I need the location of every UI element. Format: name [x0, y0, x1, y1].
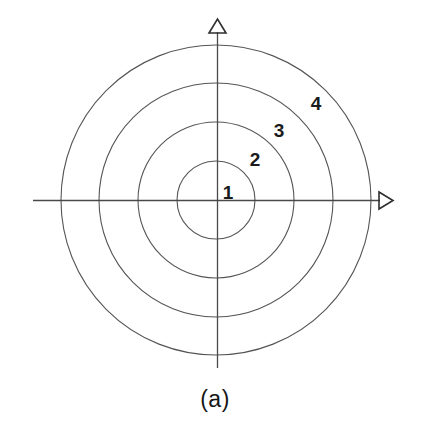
concentric-circles-diagram	[0, 0, 430, 437]
axes-group	[33, 19, 393, 368]
ring-label-2: 2	[250, 150, 261, 169]
ring-label-4: 4	[311, 94, 322, 113]
figure-container: 1 2 3 4 (a)	[0, 0, 430, 437]
figure-caption: (a)	[0, 388, 430, 411]
horizontal-axis-arrow-icon	[379, 192, 393, 209]
ring-label-3: 3	[274, 121, 285, 140]
vertical-axis-arrow-icon	[209, 19, 226, 33]
ring-label-1: 1	[223, 183, 234, 202]
